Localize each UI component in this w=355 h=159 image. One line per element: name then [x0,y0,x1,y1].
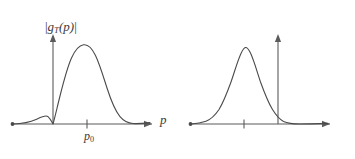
figure-container: |gT(p)| p p0 |gR(p)| p −p0 [0,0,355,159]
y-axis-label-transmitted: |gT(p)| [45,20,77,33]
plot-right-svg [178,0,355,159]
abs-bar-close-left: | [74,19,77,34]
y-axis-arrow-right [275,34,281,42]
y-axis-arrow-left [50,34,56,42]
subscript-zero-left: 0 [90,135,94,144]
subscript-T: T [54,25,59,35]
curve-transmitted [13,45,150,124]
tick-label-p0: p0 [84,130,94,142]
panel-reflected-amplitude: |gR(p)| p −p0 [178,0,355,159]
curve-reflected [191,47,328,124]
x-axis-label-left: p [160,113,167,126]
x-axis-arrow-left [144,121,152,127]
argument-left: (p) [59,19,74,34]
panel-transmitted-amplitude: |gT(p)| p p0 [0,0,178,159]
